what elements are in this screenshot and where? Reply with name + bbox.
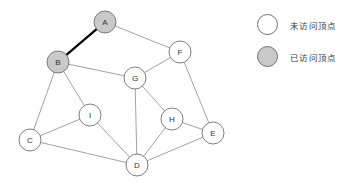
legend-swatch-visited-icon — [257, 46, 278, 67]
graph-edge-f-e — [184, 62, 209, 123]
graph-node-label-d: D — [134, 161, 140, 170]
graph-edge-b-i — [64, 71, 85, 105]
graph-edge-b-c — [34, 72, 55, 129]
graph-edge-b-g — [69, 64, 124, 76]
graph-node-i[interactable]: I — [79, 104, 101, 126]
graph-node-h[interactable]: H — [161, 108, 183, 130]
graph-node-f[interactable]: F — [169, 41, 191, 63]
graph-node-label-a: A — [102, 18, 108, 27]
graph-edge-i-d — [98, 123, 130, 157]
legend-swatch-unvisited-icon — [257, 14, 278, 35]
graph-node-c[interactable]: C — [19, 129, 41, 151]
graph-node-d[interactable]: D — [126, 154, 148, 176]
legend-label-unvisited: 未访问顶点 — [290, 19, 337, 31]
graph-edge-a-f — [115, 26, 170, 48]
graph-edge-a-b — [66, 29, 96, 55]
graph-edge-h-d — [144, 128, 166, 156]
graph-node-g[interactable]: G — [124, 67, 146, 89]
graph-edge-h-e — [182, 123, 202, 130]
graph-node-label-b: B — [55, 58, 60, 67]
graph-edge-g-h — [142, 86, 164, 111]
graph-node-a[interactable]: A — [94, 11, 116, 33]
graph-node-b[interactable]: B — [47, 51, 69, 73]
graph-node-e[interactable]: E — [202, 122, 224, 144]
graph-edge-g-d — [135, 89, 136, 154]
graph-node-label-f: F — [178, 48, 183, 57]
graph-node-label-i: I — [89, 111, 91, 120]
graph-node-label-g: G — [132, 74, 138, 83]
graph-edge-c-i — [40, 119, 80, 136]
graph-edge-g-f — [145, 58, 171, 73]
node-layer: ABCDEFGHI — [19, 11, 224, 176]
graph-node-label-h: H — [169, 115, 175, 124]
graph-node-label-c: C — [27, 136, 33, 145]
graph-figure: ABCDEFGHI 未访问顶点 已访问顶点 — [0, 0, 345, 193]
graph-node-label-e: E — [210, 129, 215, 138]
graph-edge-c-d — [41, 143, 127, 163]
legend-label-visited: 已访问顶点 — [290, 51, 337, 63]
